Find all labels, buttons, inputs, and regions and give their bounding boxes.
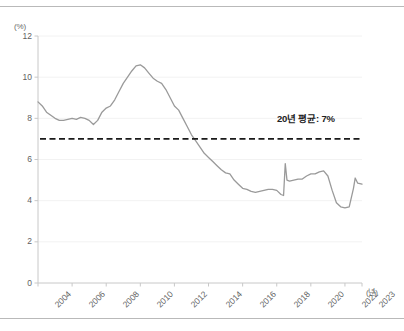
average-annotation-label: 20년 평균: 7% (277, 111, 335, 125)
y-tick-label: 12 (10, 31, 32, 41)
line-chart-plot (0, 0, 404, 331)
y-tick-label: 8 (10, 113, 32, 123)
y-tick-label: 6 (10, 154, 32, 164)
chart-figure: (%) (년) 024681012 2004200620082010201220… (0, 0, 404, 331)
y-tick-label: 0 (10, 278, 32, 288)
y-tick-label: 10 (10, 72, 32, 82)
y-tick-label: 2 (10, 236, 32, 246)
gridlines (38, 36, 362, 242)
data-series-line (38, 65, 362, 208)
axis-tick-marks (35, 36, 363, 287)
y-tick-label: 4 (10, 195, 32, 205)
